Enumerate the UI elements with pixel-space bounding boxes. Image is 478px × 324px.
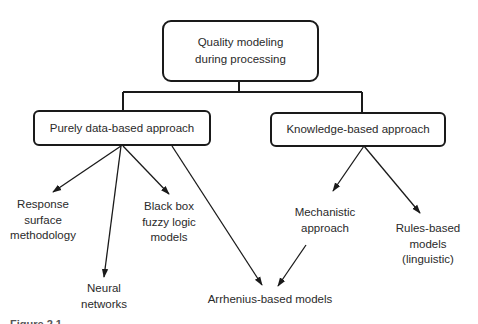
line: networks xyxy=(74,297,134,313)
figure-caption: Figure 2.1 xyxy=(10,318,62,324)
root-line1: Quality modeling xyxy=(195,34,286,51)
line: Mechanistic xyxy=(292,205,358,221)
line: models xyxy=(138,230,200,246)
line: models xyxy=(394,237,462,253)
data-based-approach-node: Purely data-based approach xyxy=(33,110,211,146)
mechanistic-approach-label: Mechanistic approach xyxy=(292,205,358,236)
black-box-fuzzy-logic-label: Black box fuzzy logic models xyxy=(138,199,200,246)
neural-networks-label: Neural networks xyxy=(74,281,134,312)
line: surface xyxy=(10,213,76,229)
response-surface-methodology-label: Response surface methodology xyxy=(10,197,76,244)
line: Rules-based xyxy=(394,221,462,237)
line: Black box xyxy=(138,199,200,215)
line: approach xyxy=(292,221,358,237)
line: Neural xyxy=(74,281,134,297)
knowledge-based-approach-node: Knowledge-based approach xyxy=(270,112,446,147)
line: methodology xyxy=(10,228,76,244)
data-based-label: Purely data-based approach xyxy=(50,120,195,137)
arrhenius-based-models-label: Arrhenius-based models xyxy=(205,292,335,308)
root-node: Quality modeling during processing xyxy=(162,20,319,82)
line: Response xyxy=(10,197,76,213)
knowledge-based-label: Knowledge-based approach xyxy=(286,121,429,138)
line: (linguistic) xyxy=(394,252,462,268)
rules-based-models-label: Rules-based models (linguistic) xyxy=(394,221,462,268)
line: fuzzy logic xyxy=(138,215,200,231)
root-line2: during processing xyxy=(195,51,286,68)
line: Arrhenius-based models xyxy=(205,292,335,308)
